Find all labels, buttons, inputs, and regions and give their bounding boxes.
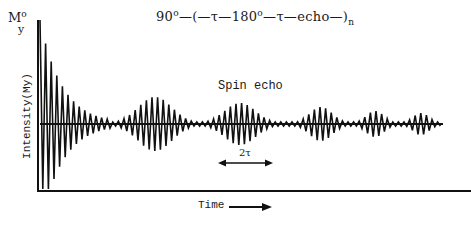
y-axis-max-label: Moy (8, 8, 27, 36)
two-tau-label: 2τ (239, 147, 251, 158)
time-arrow (229, 203, 272, 211)
y-axis-label: Intensity(My) (21, 71, 33, 161)
pulse-sequence-title: 90o—(—τ—180o—τ—echo—)n (156, 8, 354, 27)
spin-echo-plot (0, 0, 471, 225)
spin-echo-annotation: Spin echo (218, 79, 283, 93)
two-tau-arrow (218, 160, 273, 167)
x-axis-label: Time (198, 199, 224, 211)
